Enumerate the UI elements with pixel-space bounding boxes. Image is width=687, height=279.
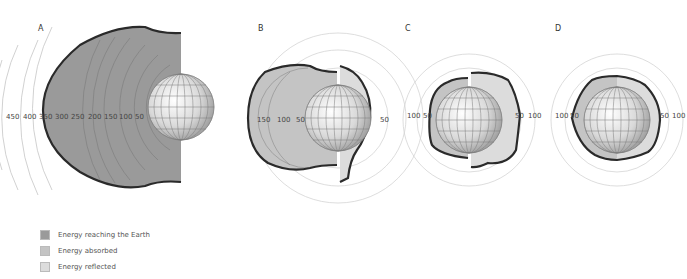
svg-text:150: 150 [257, 116, 270, 124]
earth-globe-icon [436, 87, 502, 153]
earth-globe-icon [584, 87, 650, 153]
panel-a: A 450 400 350 300 250 200 150 [0, 24, 214, 195]
legend-item-reaching: Energy reaching the Earth [40, 227, 150, 243]
swatch-absorbed [40, 246, 50, 256]
legend-item-reflected: Energy reflected [40, 259, 150, 275]
swatch-reaching [40, 230, 50, 240]
scale-labels-a: 450 400 350 300 250 200 150 100 50 [6, 113, 144, 121]
legend: Energy reaching the Earth Energy absorbe… [40, 227, 150, 275]
svg-text:450: 450 [6, 113, 19, 121]
svg-text:50: 50 [515, 112, 524, 120]
legend-label: Energy reflected [58, 263, 116, 271]
svg-text:50: 50 [660, 112, 669, 120]
panel-c-label: C [405, 24, 411, 33]
earth-globe-icon [305, 85, 371, 151]
swatch-reflected [40, 262, 50, 272]
svg-text:200: 200 [88, 113, 101, 121]
legend-label: Energy reaching the Earth [58, 231, 150, 239]
panel-b-label: B [258, 24, 264, 33]
svg-text:100: 100 [119, 113, 132, 121]
svg-text:250: 250 [71, 113, 84, 121]
legend-label: Energy absorbed [58, 247, 117, 255]
svg-text:100: 100 [528, 112, 541, 120]
panel-a-label: A [38, 24, 44, 33]
earth-globe-icon [148, 74, 214, 140]
panel-d-label: D [555, 24, 561, 33]
svg-text:50: 50 [423, 112, 432, 120]
svg-text:100: 100 [555, 112, 568, 120]
panel-d: D 100 50 50 100 [551, 24, 685, 186]
svg-text:50: 50 [380, 116, 389, 124]
svg-text:100: 100 [407, 112, 420, 120]
svg-text:100: 100 [672, 112, 685, 120]
svg-text:350: 350 [39, 113, 52, 121]
svg-text:50: 50 [570, 112, 579, 120]
svg-text:50: 50 [296, 116, 305, 124]
legend-item-absorbed: Energy absorbed [40, 243, 150, 259]
svg-text:100: 100 [277, 116, 290, 124]
svg-text:50: 50 [135, 113, 144, 121]
svg-text:300: 300 [55, 113, 68, 121]
svg-text:400: 400 [23, 113, 36, 121]
panel-c: C 100 50 50 100 [403, 24, 541, 186]
panel-b: B 150 100 50 50 [248, 24, 423, 203]
svg-text:150: 150 [104, 113, 117, 121]
